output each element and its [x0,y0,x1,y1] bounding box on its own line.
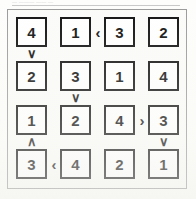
constraint-v-c4-r3r4: ∨ [155,136,173,147]
constraint-h-r3-c3c4: › [136,111,148,129]
constraint-v-c1-r3r4: ∧ [23,136,41,147]
top-horizontal-rule [12,5,180,6]
grid-cell-r4c1[interactable]: 3 [16,149,47,179]
grid-cell-r1c3[interactable]: 3 [104,17,135,47]
grid-cell-r4c3[interactable]: 2 [104,149,135,179]
grid-cell-r1c1[interactable]: 4 [16,17,47,47]
grid-cell-r2c2[interactable]: 3 [60,61,91,91]
futoshiki-grid: 4 1 3 2 ‹ 2 3 1 4 ∨ 1 2 4 3 ∨ › 3 4 2 1 … [16,17,180,183]
puzzle-outer-frame: 4 1 3 2 ‹ 2 3 1 4 ∨ 1 2 4 3 ∨ › 3 4 2 1 … [7,9,187,189]
grid-cell-r2c1[interactable]: 2 [16,61,47,91]
constraint-v-c1-r1r2: ∨ [23,48,41,59]
constraint-v-c2-r2r3: ∨ [67,92,85,103]
constraint-h-r1-c2c3: ‹ [92,23,104,41]
grid-cell-r2c4[interactable]: 4 [148,61,179,91]
constraint-h-r4-c1c2: ‹ [48,155,60,173]
grid-cell-r3c2[interactable]: 2 [60,105,91,135]
grid-cell-r4c4[interactable]: 1 [148,149,179,179]
grid-cell-r1c2[interactable]: 1 [60,17,91,47]
grid-cell-r4c2[interactable]: 4 [60,149,91,179]
grid-cell-r3c3[interactable]: 4 [104,105,135,135]
grid-cell-r3c1[interactable]: 1 [16,105,47,135]
puzzle-page: — ——— —— — 4 1 3 2 ‹ 2 3 1 4 ∨ 1 2 4 3 ∨… [0,0,196,199]
grid-cell-r1c4[interactable]: 2 [148,17,179,47]
grid-cell-r3c4[interactable]: 3 [148,105,179,135]
grid-cell-r2c3[interactable]: 1 [104,61,135,91]
